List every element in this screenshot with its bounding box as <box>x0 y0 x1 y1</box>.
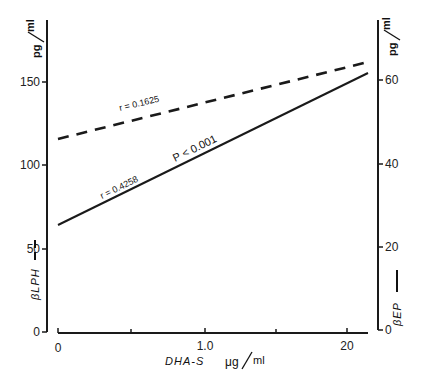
x-axis: 0 1.0 20 <box>55 328 368 355</box>
left-tick-50: 50 <box>27 242 41 256</box>
svg-text:μg: μg <box>225 355 239 369</box>
blph-dashed-line <box>58 62 368 139</box>
left-tick-0: 0 <box>33 325 40 339</box>
left-unit-label: pg ml <box>24 19 44 58</box>
right-unit-label: pg ml <box>380 17 400 56</box>
x-tick-20: 20 <box>340 339 354 353</box>
right-y-axis: 60 40 20 0 <box>378 20 399 337</box>
x-axis-title: DHA-S μg ml <box>165 352 265 369</box>
svg-text:βLPH: βLPH <box>29 268 41 301</box>
svg-text:ml: ml <box>24 19 36 32</box>
svg-text:βEP: βEP <box>391 302 403 327</box>
right-tick-60: 60 <box>385 73 399 87</box>
chart-canvas: 150 100 50 0 pg ml βLPH 60 40 20 0 pg ml… <box>0 0 421 386</box>
right-axis-title: βEP <box>391 270 403 327</box>
svg-text:ml: ml <box>380 17 392 30</box>
svg-text:ml: ml <box>253 354 265 366</box>
svg-text:pg: pg <box>386 43 398 56</box>
x-tick-0: 0 <box>55 341 62 355</box>
svg-text:pg: pg <box>30 45 42 58</box>
dashed-r-annotation: r = 0.1625 <box>118 94 160 113</box>
left-tick-150: 150 <box>20 75 40 89</box>
left-tick-100: 100 <box>20 158 40 172</box>
right-tick-20: 20 <box>385 240 399 254</box>
right-tick-40: 40 <box>385 157 399 171</box>
bep-solid-line <box>58 73 368 225</box>
svg-text:DHA-S: DHA-S <box>165 355 204 367</box>
x-tick-1.0: 1.0 <box>197 339 214 353</box>
